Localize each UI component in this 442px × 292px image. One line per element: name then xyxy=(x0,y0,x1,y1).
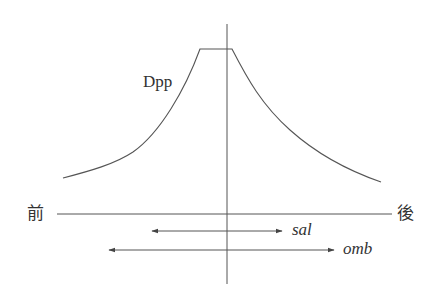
anterior-label: 前 xyxy=(27,205,44,222)
dpp-gradient-diagram xyxy=(0,0,442,292)
dpp-label: Dpp xyxy=(143,73,172,90)
sal-label: sal xyxy=(292,221,312,238)
omb-label: omb xyxy=(343,240,372,257)
diagram-canvas: Dpp 前 後 sal omb xyxy=(0,0,442,292)
posterior-label: 後 xyxy=(397,205,414,222)
dpp-gradient-curve xyxy=(63,49,381,182)
